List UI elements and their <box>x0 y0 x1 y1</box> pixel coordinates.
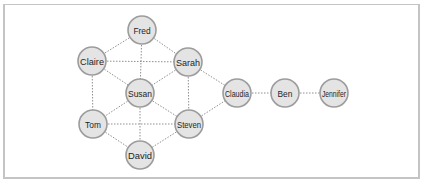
node-claudia: Claudia <box>223 79 251 107</box>
network-graph: FredClaireSarahSusanTomStevenDavidClaudi… <box>0 0 426 186</box>
node-jennifer: Jennifer <box>320 79 348 107</box>
node-label: Tom <box>85 119 101 130</box>
node-label: Fred <box>133 25 150 36</box>
node-label: Sarah <box>176 57 200 68</box>
node-ben: Ben <box>271 79 299 107</box>
node-label: Susan <box>128 88 152 99</box>
node-label: Claudia <box>225 88 250 99</box>
node-david: David <box>126 141 154 169</box>
node-susan: Susan <box>126 79 154 107</box>
node-label: David <box>128 150 152 161</box>
node-steven: Steven <box>175 110 203 138</box>
node-label: Jennifer <box>322 88 346 99</box>
node-tom: Tom <box>79 110 107 138</box>
node-label: Claire <box>80 56 104 67</box>
node-label: Steven <box>177 119 201 130</box>
node-label: Ben <box>278 88 293 99</box>
node-sarah: Sarah <box>174 48 202 76</box>
node-claire: Claire <box>78 47 106 75</box>
node-fred: Fred <box>128 16 156 44</box>
